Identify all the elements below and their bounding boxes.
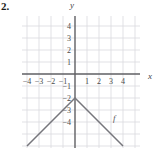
x-tick-label: 3 bbox=[109, 77, 113, 86]
x-tick-label: 1 bbox=[85, 77, 89, 86]
y-tick-label: 1 bbox=[67, 58, 71, 67]
y-tick-label: −2 bbox=[62, 94, 71, 103]
y-tick-label: 3 bbox=[67, 34, 71, 43]
y-axis bbox=[73, 16, 78, 148]
x-tick-labels: −4 −3 −2 −1 1 2 3 4 bbox=[23, 77, 125, 86]
function-label-f: f bbox=[113, 114, 116, 123]
graph-svg: −4 −3 −2 −1 1 2 3 4 4 3 2 1 −1 −2 −3 −4 bbox=[22, 16, 140, 148]
x-axis-title: x bbox=[148, 72, 152, 81]
problem-number: 2. bbox=[1, 0, 9, 12]
x-tick-label: 2 bbox=[97, 77, 101, 86]
y-tick-label: −3 bbox=[62, 106, 71, 115]
x-tick-label: −2 bbox=[47, 77, 56, 86]
y-tick-label: −4 bbox=[62, 118, 71, 127]
x-tick-label: −4 bbox=[23, 77, 32, 86]
x-axis bbox=[22, 72, 140, 77]
y-axis-title: y bbox=[70, 1, 74, 10]
x-tick-label: 4 bbox=[121, 77, 125, 86]
y-tick-label: 2 bbox=[67, 46, 71, 55]
x-tick-label: −3 bbox=[35, 77, 44, 86]
y-tick-label: −1 bbox=[62, 82, 71, 91]
y-tick-label: 4 bbox=[67, 22, 71, 31]
figure-container: 2. bbox=[0, 0, 155, 148]
grid-lines-horizontal bbox=[22, 26, 140, 146]
coordinate-plane: −4 −3 −2 −1 1 2 3 4 4 3 2 1 −1 −2 −3 −4 bbox=[22, 16, 140, 148]
